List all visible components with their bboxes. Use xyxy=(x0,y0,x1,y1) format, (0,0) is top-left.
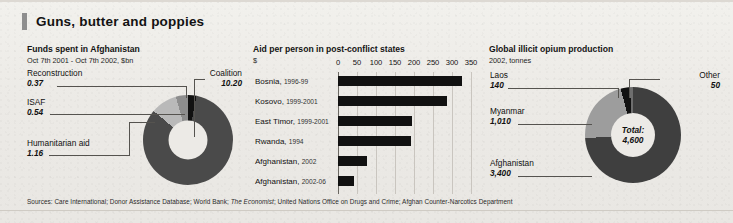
x-axis-tick-100: 100 xyxy=(370,58,383,67)
top-rule xyxy=(0,0,733,2)
donut-chart-funds xyxy=(143,95,233,185)
leader-other-v xyxy=(629,79,630,98)
sources-suffix: ; United Nations Office on Drugs and Cri… xyxy=(274,198,513,205)
leader-laos xyxy=(508,88,618,89)
leader-coalition-v xyxy=(194,79,195,137)
page-title: Guns, butter and poppies xyxy=(36,15,204,29)
donut-chart-opium: Total: 4,600 xyxy=(585,87,681,183)
bar-category-name: Rwanda, xyxy=(255,137,289,146)
bar-category-name: Afghanistan, xyxy=(255,177,302,186)
label-coalition: Coalition 10.20 xyxy=(176,68,242,88)
label-afghanistan-opium-name: Afghanistan xyxy=(490,158,534,168)
x-axis-tick-200: 200 xyxy=(408,58,421,67)
panel-left-subtitle: Oct 7th 2001 - Oct 7th 2002, $bn xyxy=(27,56,242,65)
x-axis-tick-350: 350 xyxy=(465,58,478,67)
bar-category-label: Bosnia, 1996-99 xyxy=(255,77,308,86)
donut-funds-hole xyxy=(169,121,208,160)
bar-kosovo-1999-2001 xyxy=(338,96,447,106)
bottom-rule xyxy=(0,210,733,211)
leader-myanmar xyxy=(518,124,592,125)
bar-category-label: Afghanistan, 2002 xyxy=(255,157,316,166)
leader-other xyxy=(629,79,660,80)
label-other-value: 50 xyxy=(660,80,720,90)
figure-title-group: Guns, butter and poppies xyxy=(22,13,204,30)
bar-category-years: 1999-2001 xyxy=(297,118,329,125)
label-humanitarian-name: Humanitarian aid xyxy=(27,138,90,148)
gridline-200 xyxy=(414,72,415,194)
panel-mid-title: Aid per person in post-conflict states xyxy=(253,44,478,55)
panel-right-title: Global illicit opium production xyxy=(489,44,719,55)
gridline-150 xyxy=(395,72,396,194)
sources-prefix: Sources: Care International; Donor Assis… xyxy=(27,198,231,205)
x-axis-tick-50: 50 xyxy=(353,58,361,67)
label-isaf-value: 0.54 xyxy=(27,107,45,117)
bar-category-label: Afghanistan, 2002-06 xyxy=(255,177,326,186)
bar-category-years: 1994 xyxy=(289,138,304,145)
bar-category-years: 2002-06 xyxy=(302,178,326,185)
bar-category-years: 1999-2001 xyxy=(286,98,318,105)
panel-left-title: Funds spent in Afghanistan xyxy=(27,44,242,55)
label-isaf: ISAF 0.54 xyxy=(27,97,45,117)
panel-funds-afghanistan: Funds spent in Afghanistan Oct 7th 2001 … xyxy=(27,44,242,65)
donut-opium-hole: Total: 4,600 xyxy=(611,113,655,157)
bar-east-timor-1999-2001 xyxy=(338,116,412,126)
leader-isaf xyxy=(50,114,185,115)
x-axis-tick-250: 250 xyxy=(427,58,440,67)
bar-category-years: 1996-99 xyxy=(284,78,308,85)
panel-opium-production: Global illicit opium production 2002, to… xyxy=(489,44,719,65)
bar-category-years: 2002 xyxy=(302,158,317,165)
bar-chart-aid: 050100150200250300350Bosnia, 1996-99Koso… xyxy=(253,58,478,188)
bar-bosnia-1996-99 xyxy=(338,76,462,86)
leader-humanitarian-v xyxy=(129,122,130,156)
bar-category-name: Bosnia, xyxy=(255,77,284,86)
gridline-350 xyxy=(471,72,472,194)
panel-right-subtitle: 2002, tonnes xyxy=(489,56,719,65)
x-axis-tick-0: 0 xyxy=(336,58,340,67)
gridline-300 xyxy=(452,72,453,194)
label-humanitarian-value: 1.16 xyxy=(27,148,90,158)
bar-afghanistan-2002-06 xyxy=(338,176,354,186)
donut-center-total-value: 4,600 xyxy=(623,135,644,146)
label-coalition-value: 10.20 xyxy=(176,78,242,88)
leader-afghanistan-opium xyxy=(518,176,592,177)
label-other-name: Other xyxy=(699,70,720,80)
leader-coalition-h xyxy=(194,79,205,80)
gridline-100 xyxy=(376,72,377,194)
leader-reconstruction xyxy=(57,86,186,87)
gridline-250 xyxy=(433,72,434,194)
leader-laos-v xyxy=(618,88,619,98)
bar-category-label: Kosovo, 1999-2001 xyxy=(255,97,318,106)
label-laos-value: 140 xyxy=(490,80,508,90)
leader-humanitarian xyxy=(49,155,129,156)
bar-rwanda-1994 xyxy=(338,136,411,146)
x-axis-tick-150: 150 xyxy=(389,58,402,67)
bar-category-name: Kosovo, xyxy=(255,97,286,106)
bar-category-label: Rwanda, 1994 xyxy=(255,137,303,146)
leader-humanitarian-h2 xyxy=(129,122,155,123)
bar-category-name: East Timor, xyxy=(255,117,297,126)
label-isaf-name: ISAF xyxy=(27,97,45,107)
bar-category-label: East Timor, 1999-2001 xyxy=(255,117,329,126)
title-accent-bar xyxy=(22,13,27,30)
sources-italic: The Economist xyxy=(231,198,274,205)
donut-center-total-label: Total: xyxy=(622,125,644,136)
label-reconstruction-name: Reconstruction xyxy=(27,68,82,78)
label-laos-name: Laos xyxy=(490,70,508,80)
bar-category-name: Afghanistan, xyxy=(255,157,302,166)
label-other: Other 50 xyxy=(660,70,720,90)
label-myanmar-name: Myanmar xyxy=(490,106,525,116)
bar-afghanistan-2002 xyxy=(338,156,367,166)
label-coalition-name: Coalition xyxy=(210,68,242,78)
sources-line: Sources: Care International; Donor Assis… xyxy=(27,198,513,205)
label-laos: Laos 140 xyxy=(490,70,508,90)
x-axis-tick-300: 300 xyxy=(446,58,459,67)
gridline-50 xyxy=(357,72,358,194)
